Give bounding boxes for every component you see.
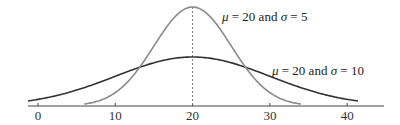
- label-text-mid: = 20 and: [229, 9, 281, 24]
- x-tick-label: 20: [186, 108, 199, 123]
- x-tick-label: 0: [35, 108, 42, 123]
- label-text-end: = 5: [287, 9, 307, 24]
- label-sigma-10: μ = 20 and σ = 10: [271, 63, 364, 78]
- x-tick-label: 30: [263, 108, 276, 123]
- label-text-mid: = 20 and: [279, 63, 331, 78]
- normal-distribution-chart: 010203040 μ = 20 and σ = 5 μ = 20 and σ …: [0, 0, 400, 125]
- x-tick-label: 10: [109, 108, 122, 123]
- label-sigma-5: μ = 20 and σ = 5: [221, 9, 307, 24]
- x-tick-label: 40: [341, 108, 354, 123]
- label-text-end: = 10: [337, 63, 364, 78]
